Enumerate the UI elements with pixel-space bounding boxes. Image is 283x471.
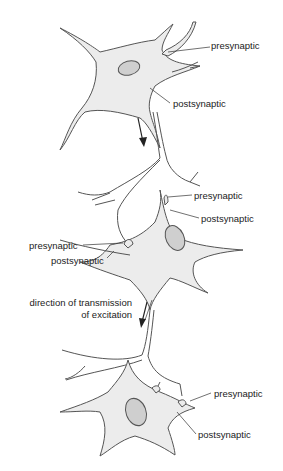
mid-left-presynaptic-label: presynaptic xyxy=(29,240,78,251)
direction-label-line1: direction of transmission xyxy=(16,297,132,308)
mid-right-presynaptic-label: presynaptic xyxy=(194,190,243,201)
top-presynaptic-label: presynaptic xyxy=(211,40,260,51)
direction-label-line2: of excitation xyxy=(16,309,132,320)
middle-right-presynaptic-terminal xyxy=(164,195,168,205)
bottom-presynaptic-label: presynaptic xyxy=(214,388,263,399)
diagram-artwork xyxy=(0,0,283,471)
middle-neuron-body xyxy=(80,190,243,310)
bottom-postsynaptic-label: postsynaptic xyxy=(198,429,251,440)
neuron-synapse-diagram: presynaptic postsynaptic presynaptic pos… xyxy=(0,0,283,471)
top-postsynaptic-label: postsynaptic xyxy=(173,98,226,109)
mid-left-postsynaptic-label: postsynaptic xyxy=(51,255,104,266)
mid-right-postsynaptic-label: postsynaptic xyxy=(201,213,254,224)
